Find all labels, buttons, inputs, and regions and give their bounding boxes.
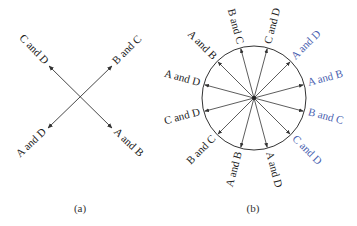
arrow-label: B and C — [110, 32, 144, 66]
radial-arrow — [254, 85, 303, 98]
radial-label: A and B — [306, 67, 344, 88]
radial-label: B and C — [226, 7, 247, 45]
diagram-canvas: C and DB and CA and DA and B (a) B and C… — [0, 0, 357, 226]
radial-label: A and D — [264, 150, 285, 189]
radial-arrow — [205, 85, 254, 98]
radial-arrow — [254, 98, 267, 147]
radial-arrow — [254, 49, 267, 98]
radial-arrow — [241, 98, 254, 147]
radial-label: A and D — [288, 27, 322, 61]
arrow-label: A and B — [112, 125, 147, 158]
radial-arrow — [205, 98, 254, 111]
radial-label: A and B — [223, 150, 244, 188]
radial-arrow — [254, 98, 290, 134]
radial-label: C and D — [163, 105, 202, 126]
radial-label: B and C — [307, 105, 345, 126]
radial-label: A and B — [186, 28, 220, 62]
panel-b-radial-circle: B and CC and DA and DA and BB and CC and… — [163, 7, 345, 189]
radial-label: C and D — [290, 132, 324, 166]
radial-arrow — [218, 98, 254, 134]
center-dot — [252, 96, 256, 100]
radial-label: B and C — [184, 132, 218, 166]
radial-arrow — [241, 49, 254, 98]
radial-arrow — [254, 62, 290, 98]
arrow-label: C and D — [17, 32, 51, 67]
panel-a-caption: (a) — [74, 202, 87, 215]
panel-b-caption: (b) — [247, 202, 260, 215]
radial-arrow — [254, 98, 303, 111]
radial-label: A and D — [163, 67, 202, 88]
arrow-label: A and D — [13, 125, 48, 159]
panel-a-crossed-arrows: C and DB and CA and DA and B — [13, 32, 146, 160]
radial-arrow — [218, 62, 254, 98]
radial-label: C and D — [261, 7, 282, 46]
